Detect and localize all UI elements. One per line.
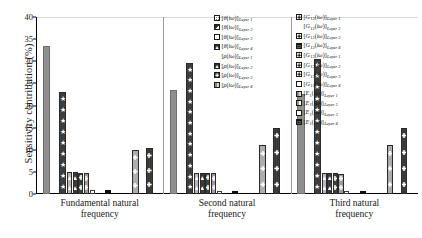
legend-swatch: ✚	[296, 52, 302, 58]
legend-swatch	[214, 53, 220, 59]
legend-item[interactable]: [ρ(iω)]Layer 1	[214, 51, 252, 61]
legend-block-2: ✚[G12(iω)]Layer 1[G12(iω)]Layer 2✚[G12(i…	[296, 12, 341, 127]
legend-item[interactable]: ▲[ρ(iω)]Layer 2	[214, 61, 252, 71]
bar-rho-layer2: ✚✚	[205, 173, 210, 194]
bar-theta-layer4: ▲▲	[327, 173, 332, 194]
legend-item[interactable]: ✚[G12(iω)]Layer 1	[296, 12, 341, 22]
legend-item[interactable]: ✚[G12(iω)]Layer 3	[296, 31, 341, 41]
bar-theta-layer4: ▲▲	[200, 173, 205, 194]
bar-e1-layer1: ✚✚✚	[132, 150, 139, 194]
bar-rho-layer3: ✚✚	[84, 173, 90, 194]
bar-pattern-glyphs: ▲▲	[328, 174, 331, 193]
legend-swatch-glyph: □	[297, 43, 300, 48]
bar-pattern-glyphs: ★★★★★★★★★	[60, 93, 65, 193]
legend-swatch	[214, 82, 220, 88]
legend-item[interactable]: [E1(iω)]Layer 2	[296, 98, 341, 108]
legend-swatch: □	[296, 119, 302, 125]
chart-root: Sensitivity contribution (%) 40353025201…	[0, 0, 422, 238]
legend-item[interactable]: ◢[θ(iω)]Layer 2	[214, 23, 252, 33]
bar-pattern-glyphs: ▲▲	[195, 174, 198, 193]
legend-label: [E1(iω)]Layer 4	[304, 119, 338, 125]
bar-rho-layer4	[217, 191, 222, 194]
bar-pattern-glyphs: ✚✚✚✚	[402, 129, 407, 193]
legend-swatch: ✚	[296, 14, 302, 20]
legend-swatch-glyph: ✚	[297, 62, 301, 67]
bar-pattern-glyphs: ▲▲	[201, 174, 204, 193]
legend-item[interactable]: [E1(iω)]Layer 3	[296, 108, 341, 118]
bar-group: ★★★★★★★★★▲▲▲▲✚✚✚✚✚✚✚✚✚✚	[36, 17, 163, 194]
legend-label: [ρ(iω)]Layer 4	[222, 82, 253, 88]
legend-label: [ρ(iω)]Layer 1	[222, 53, 253, 59]
bar-rho-layer1: ▲▲	[67, 172, 72, 194]
bar-pattern-glyphs: ✚✚	[212, 174, 216, 193]
bar-pattern-glyphs: ✚✚	[334, 174, 337, 193]
legend-label: [G12(iω)]Layer 3	[304, 33, 341, 39]
legend-item[interactable]: [ρ(iω)]Layer 4	[214, 80, 252, 90]
bar-pattern-glyphs: ✚✚	[206, 174, 209, 193]
legend-swatch-glyph: ◢	[215, 25, 219, 30]
legend-item[interactable]: [G13(iω)]Layer 4	[296, 79, 341, 89]
bar-rho-layer1: ▲▲	[322, 173, 327, 194]
bar-g12-layer4	[105, 190, 111, 194]
bar-e1-layer4: ✚✚✚✚	[273, 128, 280, 194]
legend-label: [E1(iω)]Layer 3	[304, 109, 338, 115]
bar-pattern-glyphs: ✚✚	[85, 174, 89, 193]
legend-swatch: ◢	[214, 24, 220, 30]
bar-theta-layer4: ▲▲	[73, 172, 78, 194]
legend-item[interactable]: [θ(iω)]Layer 3	[214, 32, 252, 42]
bar-pattern-glyphs: ▲▲	[74, 173, 77, 193]
bar-rho-layer4	[344, 191, 349, 194]
legend-item[interactable]: ✚[ρ(iω)]Layer 3	[214, 71, 252, 81]
legend-label: [G13(iω)]Layer 1	[304, 52, 341, 58]
legend-block-1: [θ(iω)]Layer 1◢[θ(iω)]Layer 2[θ(iω)]Laye…	[214, 13, 252, 90]
legend-swatch-glyph: ✚	[215, 73, 219, 78]
bar-theta-layer2: ★★★★★★★★★	[59, 92, 66, 194]
bar-g12-layer4	[360, 191, 366, 194]
legend-item[interactable]: [E1(iω)]Layer 1	[296, 89, 341, 99]
bar-rho-layer1: ▲▲	[194, 173, 199, 194]
legend-label: [θ(iω)]Layer 2	[222, 24, 253, 30]
legend-swatch-glyph: ▲	[215, 63, 220, 68]
legend-label: [G13(iω)]Layer 4	[304, 81, 341, 87]
legend-swatch-glyph: ✚	[297, 72, 301, 77]
bar-rho-layer3: ✚✚	[211, 173, 217, 194]
legend-swatch	[214, 34, 220, 40]
legend-item[interactable]: ✚[G13(iω)]Layer 3	[296, 70, 341, 80]
legend-item[interactable]: ✚[G13(iω)]Layer 1	[296, 50, 341, 60]
bar-pattern-glyphs: ✚✚✚	[147, 149, 152, 193]
legend-swatch: ✚	[214, 72, 220, 78]
x-axis-group-label: Second naturalfrequency	[163, 198, 290, 219]
legend-swatch: ✚	[296, 71, 302, 77]
legend-item[interactable]: ▲[θ(iω)]Layer 4	[214, 42, 252, 52]
legend-item[interactable]: □[G12(iω)]Layer 4	[296, 41, 341, 51]
bar-theta-layer1	[170, 90, 178, 194]
legend-item[interactable]: [θ(iω)]Layer 1	[214, 13, 252, 23]
x-label-line-2: frequency	[291, 209, 418, 220]
legend-swatch-glyph: ✚	[297, 14, 301, 19]
bar-pattern-glyphs: ✚✚✚	[133, 151, 138, 193]
legend-swatch: ✚	[296, 62, 302, 68]
legend-swatch-glyph: □	[297, 120, 300, 125]
legend-swatch-glyph: ▲	[215, 44, 220, 49]
bar-e1-layer4: ✚✚✚	[146, 148, 153, 194]
x-label-line-1: Fundamental natural	[36, 198, 163, 209]
legend-item[interactable]: ✚[G13(iω)]Layer 2	[296, 60, 341, 70]
legend-swatch	[214, 15, 220, 21]
legend-label: [θ(iω)]Layer 3	[222, 34, 253, 40]
legend-label: [G12(iω)]Layer 4	[304, 42, 341, 48]
legend-label: [G12(iω)]Layer 1	[304, 14, 341, 20]
bar-pattern-glyphs: ✚✚	[339, 175, 343, 193]
legend-label: [E1(iω)]Layer 1	[304, 90, 338, 96]
legend-swatch	[296, 23, 302, 29]
legend-swatch: ▲	[214, 44, 220, 50]
bar-pattern-glyphs: ✚✚✚	[388, 146, 393, 193]
bar-pattern-glyphs: ▲▲	[323, 174, 326, 193]
bar-e1-layer1: ✚✚✚	[387, 145, 394, 194]
legend-swatch	[296, 100, 302, 106]
legend-item[interactable]: [G12(iω)]Layer 2	[296, 22, 341, 32]
legend-swatch	[296, 81, 302, 87]
legend-label: [G13(iω)]Layer 3	[304, 71, 341, 77]
legend-item[interactable]: □[E1(iω)]Layer 4	[296, 118, 341, 128]
bar-rho-layer4	[90, 190, 95, 194]
legend-label: [G12(iω)]Layer 2	[304, 23, 341, 29]
